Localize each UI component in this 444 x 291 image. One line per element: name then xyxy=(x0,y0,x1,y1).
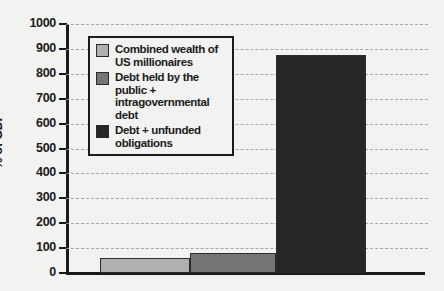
gridline xyxy=(66,223,428,224)
y-tick-label-wrap: 400 xyxy=(0,165,56,179)
gridline xyxy=(66,24,428,25)
y-tick-label: 0 xyxy=(4,265,56,279)
y-tick-label-wrap: 100 xyxy=(0,240,56,254)
legend-label: Combined wealth of US millionaires xyxy=(115,43,218,68)
chart-legend: Combined wealth of US millionairesDebt h… xyxy=(88,36,234,156)
y-tick-label-wrap: 300 xyxy=(0,190,56,204)
y-tick-label-wrap: 900 xyxy=(0,41,56,55)
y-tick-label-wrap: 0 xyxy=(0,265,56,279)
bar xyxy=(276,55,366,273)
gridline xyxy=(66,173,428,174)
y-tick-label: 500 xyxy=(4,141,56,155)
bar xyxy=(190,253,276,273)
legend-item: Debt held by the public + intragovernmen… xyxy=(96,71,227,121)
bar-chart: % of GDP 1000900800700600500400300200100… xyxy=(0,0,444,291)
y-tick-label: 100 xyxy=(4,240,56,254)
y-tick-label: 600 xyxy=(4,116,56,130)
y-tick-label: 200 xyxy=(4,215,56,229)
y-tick-label: 900 xyxy=(4,41,56,55)
gridline xyxy=(66,248,428,249)
y-tick-label-wrap: 700 xyxy=(0,91,56,105)
y-tick-label-wrap: 500 xyxy=(0,141,56,155)
legend-label: Debt + unfunded obligations xyxy=(115,124,227,149)
legend-label: Debt held by the public + intragovernmen… xyxy=(115,71,227,121)
y-tick-label: 1000 xyxy=(4,16,56,30)
bar xyxy=(100,258,190,273)
y-tick-label: 300 xyxy=(4,190,56,204)
y-tick-label-wrap: 600 xyxy=(0,116,56,130)
y-tick-label: 800 xyxy=(4,66,56,80)
legend-swatch-icon xyxy=(96,72,109,85)
gridline xyxy=(66,198,428,199)
y-tick-label: 700 xyxy=(4,91,56,105)
legend-swatch-icon xyxy=(96,44,109,57)
legend-swatch-icon xyxy=(96,125,109,138)
legend-item: Combined wealth of US millionaires xyxy=(96,43,227,68)
legend-item: Debt + unfunded obligations xyxy=(96,124,227,149)
y-tick-label: 400 xyxy=(4,165,56,179)
y-tick-label-wrap: 1000 xyxy=(0,16,56,30)
y-tick-label-wrap: 200 xyxy=(0,215,56,229)
y-tick-label-wrap: 800 xyxy=(0,66,56,80)
